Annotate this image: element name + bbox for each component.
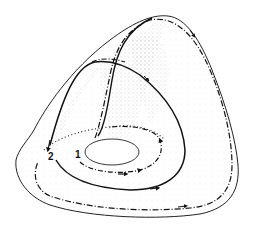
inner-orbit xyxy=(85,139,139,165)
label-2: 2 xyxy=(48,151,54,162)
phase-surface-diagram: 2 1 xyxy=(0,0,267,229)
label-1: 1 xyxy=(75,149,81,160)
